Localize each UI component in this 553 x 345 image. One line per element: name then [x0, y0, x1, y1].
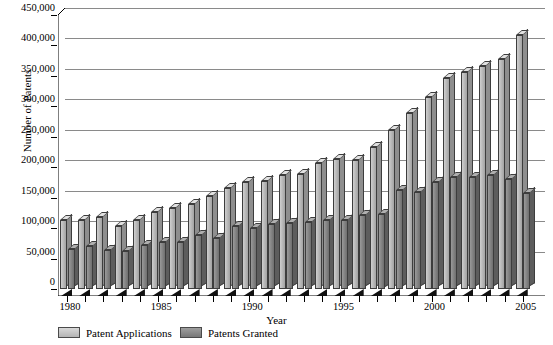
bar-granted-1998[interactable]: [396, 190, 403, 289]
bar-face: [104, 250, 111, 289]
bar-group-1995[interactable]: [333, 8, 351, 289]
bar-group-1986[interactable]: [169, 8, 187, 289]
bar-granted-1981[interactable]: [86, 246, 93, 289]
bar-granted-2004[interactable]: [505, 179, 512, 289]
bar-face: [461, 72, 468, 289]
bar-granted-1986[interactable]: [177, 242, 184, 289]
bar-group-2004[interactable]: [498, 8, 516, 289]
bar-face: [414, 192, 421, 289]
bar-applications-2002[interactable]: [461, 72, 468, 289]
bar-applications-1997[interactable]: [370, 147, 377, 289]
bar-face: [505, 179, 512, 289]
bar-applications-1983[interactable]: [115, 226, 122, 289]
bar-group-1989[interactable]: [224, 8, 242, 289]
bar-granted-1980[interactable]: [68, 249, 75, 289]
bar-applications-1988[interactable]: [206, 196, 213, 289]
bar-granted-1997[interactable]: [378, 214, 385, 290]
bar-face: [224, 188, 231, 289]
bar-granted-2002[interactable]: [469, 177, 476, 289]
bar-applications-1981[interactable]: [78, 220, 85, 289]
bar-group-2001[interactable]: [443, 8, 461, 289]
bar-granted-1988[interactable]: [213, 238, 220, 289]
bar-granted-2005[interactable]: [523, 193, 530, 289]
bar-group-1999[interactable]: [406, 8, 424, 289]
bar-group-1997[interactable]: [370, 8, 388, 289]
bar-group-1991[interactable]: [261, 8, 279, 289]
bar-face: [479, 66, 486, 289]
bar-group-2005[interactable]: [516, 8, 534, 289]
bar-group-1983[interactable]: [115, 8, 133, 289]
group-base-marker: [444, 289, 455, 296]
bar-group-1987[interactable]: [188, 8, 206, 289]
group-base-marker: [61, 289, 72, 296]
bar-group-1992[interactable]: [279, 8, 297, 289]
bar-group-1984[interactable]: [133, 8, 151, 289]
bar-applications-1985[interactable]: [151, 212, 158, 289]
bar-group-1982[interactable]: [96, 8, 114, 289]
group-base-marker: [225, 289, 236, 296]
group-base-marker: [353, 289, 364, 296]
bar-granted-1984[interactable]: [141, 245, 148, 289]
bar-granted-1994[interactable]: [323, 220, 330, 289]
bar-applications-1987[interactable]: [188, 204, 195, 289]
bar-applications-1984[interactable]: [133, 220, 140, 289]
bar-applications-1999[interactable]: [406, 113, 413, 289]
bar-face: [177, 242, 184, 289]
bar-granted-1989[interactable]: [232, 226, 239, 289]
bar-face: [286, 223, 293, 289]
group-base-marker: [243, 289, 254, 296]
bar-applications-1990[interactable]: [242, 182, 249, 289]
bar-applications-2001[interactable]: [443, 78, 450, 289]
bar-group-1981[interactable]: [78, 8, 96, 289]
bar-granted-2000[interactable]: [432, 182, 439, 289]
legend-item-applications: Patent Applications: [58, 326, 172, 339]
bar-granted-1990[interactable]: [250, 228, 257, 289]
bar-group-1985[interactable]: [151, 8, 169, 289]
bar-applications-2005[interactable]: [516, 35, 523, 290]
bar-face: [213, 238, 220, 289]
bar-applications-1998[interactable]: [388, 130, 395, 289]
bar-applications-1993[interactable]: [297, 174, 304, 289]
bar-group-2002[interactable]: [461, 8, 479, 289]
bar-applications-2004[interactable]: [498, 59, 505, 289]
bar-granted-2003[interactable]: [487, 175, 494, 289]
bar-granted-1982[interactable]: [104, 250, 111, 289]
bar-applications-1982[interactable]: [96, 217, 103, 289]
bar-face: [169, 208, 176, 289]
bar-applications-1992[interactable]: [279, 175, 286, 289]
bar-granted-1991[interactable]: [268, 224, 275, 289]
bar-group-1990[interactable]: [242, 8, 260, 289]
group-base-marker: [389, 289, 400, 296]
bar-granted-1995[interactable]: [341, 220, 348, 289]
bar-group-1996[interactable]: [352, 8, 370, 289]
bar-group-1980[interactable]: [60, 8, 78, 289]
bar-applications-1994[interactable]: [315, 163, 322, 289]
x-tick-label: 1985: [141, 301, 181, 312]
bar-granted-1985[interactable]: [159, 242, 166, 289]
y-tick-mark: [51, 289, 57, 290]
group-base-marker: [280, 289, 291, 296]
bar-granted-1993[interactable]: [305, 222, 312, 289]
bar-granted-1987[interactable]: [195, 235, 202, 289]
bar-granted-1983[interactable]: [122, 251, 129, 289]
bar-applications-2003[interactable]: [479, 66, 486, 289]
bar-applications-2000[interactable]: [425, 97, 432, 289]
bar-applications-1991[interactable]: [261, 181, 268, 289]
bar-group-1998[interactable]: [388, 8, 406, 289]
bar-granted-1992[interactable]: [286, 223, 293, 289]
bar-applications-1995[interactable]: [333, 159, 340, 289]
bar-group-2000[interactable]: [425, 8, 443, 289]
bar-applications-1980[interactable]: [60, 220, 67, 289]
bar-group-1994[interactable]: [315, 8, 333, 289]
bar-granted-2001[interactable]: [450, 177, 457, 289]
bar-applications-1986[interactable]: [169, 208, 176, 289]
bar-applications-1989[interactable]: [224, 188, 231, 289]
bar-group-2003[interactable]: [479, 8, 497, 289]
bar-group-1993[interactable]: [297, 8, 315, 289]
bar-granted-1996[interactable]: [359, 215, 366, 289]
y-tick-label: 250,000: [0, 125, 55, 135]
bar-granted-1999[interactable]: [414, 192, 421, 289]
bar-applications-1996[interactable]: [352, 160, 359, 289]
group-base-marker: [407, 289, 418, 296]
bar-group-1988[interactable]: [206, 8, 224, 289]
